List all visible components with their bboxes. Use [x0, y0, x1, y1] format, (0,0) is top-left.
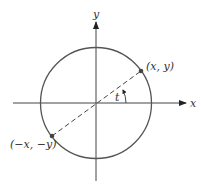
x-axis-label: x [190, 97, 197, 110]
angle-arc [123, 90, 126, 103]
unit-circle-diagram: x y (x, y) (−x, −y) t [0, 0, 204, 187]
y-axis-label: y [92, 8, 100, 21]
point-neg-xy-label: (−x, −y) [10, 138, 56, 151]
point-xy [139, 69, 144, 74]
angle-label: t [115, 91, 120, 104]
point-xy-label: (x, y) [146, 60, 174, 73]
